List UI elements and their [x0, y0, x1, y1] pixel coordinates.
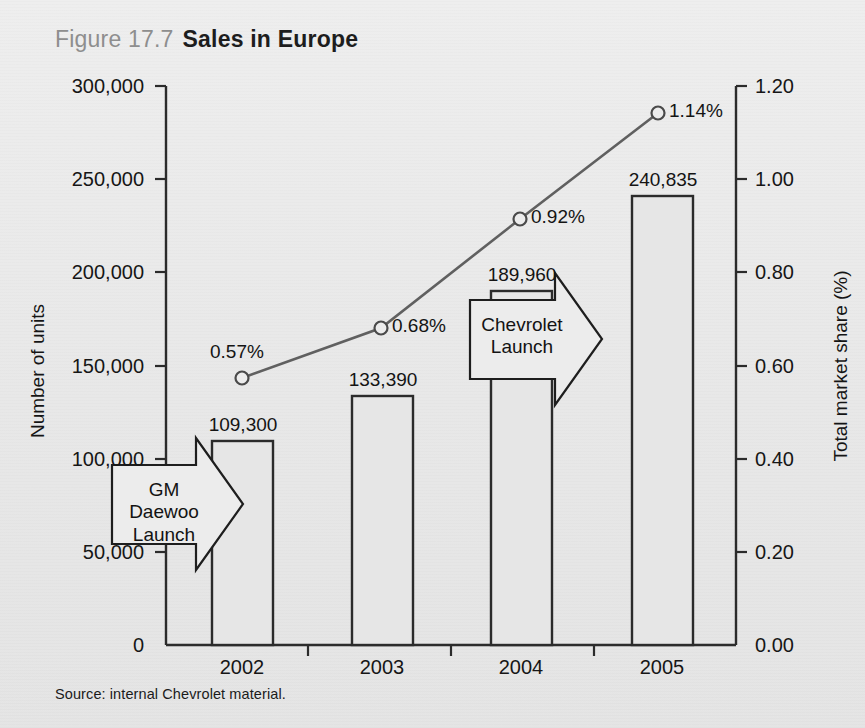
point-label-2004: 0.92% — [531, 206, 585, 228]
bar-label-2004: 189,960 — [442, 264, 602, 286]
ytick-left-300000: 300,000 — [14, 75, 144, 98]
point-label-2005: 1.14% — [669, 100, 723, 122]
ytick-left-150000: 150,000 — [14, 355, 144, 378]
bar-label-2002: 109,300 — [163, 414, 323, 436]
y-axis-right-ticks — [736, 86, 747, 552]
xtick-2003: 2003 — [322, 656, 442, 679]
xtick-2005: 2005 — [602, 656, 722, 679]
ytick-right-0-20: 0.20 — [755, 541, 865, 564]
point-label-2002: 0.57% — [210, 341, 264, 363]
ytick-left-0: 0 — [14, 634, 144, 657]
bar-label-2003: 133,390 — [303, 369, 463, 391]
marker-2003 — [375, 322, 388, 335]
ytick-left-200000: 200,000 — [14, 261, 144, 284]
marker-2002 — [236, 372, 249, 385]
marker-2004 — [514, 213, 527, 226]
ytick-right-1-00: 1.00 — [755, 168, 865, 191]
bar-2005 — [632, 196, 693, 645]
point-label-2003: 0.68% — [392, 315, 446, 337]
source-note: Source: internal Chevrolet material. — [55, 686, 286, 702]
figure-page: Figure 17.7Sales in Europe — [0, 0, 865, 728]
chevrolet-launch-label: Chevrolet Launch — [470, 314, 574, 359]
bar-2003 — [352, 396, 413, 645]
ytick-right-0-80: 0.80 — [755, 261, 865, 284]
chart-area: Number of units Total market share (%) 3… — [0, 0, 865, 728]
gm-daewoo-launch-label: GM Daewoo Launch — [112, 479, 216, 546]
ytick-left-100000: 100,000 — [14, 448, 144, 471]
xtick-2002: 2002 — [182, 656, 302, 679]
marker-2005 — [652, 107, 665, 120]
x-axis-ticks — [308, 645, 594, 656]
ytick-right-0-40: 0.40 — [755, 448, 865, 471]
xtick-2004: 2004 — [461, 656, 581, 679]
ytick-right-1-20: 1.20 — [755, 75, 865, 98]
ytick-right-0-00: 0.00 — [755, 634, 865, 657]
ytick-right-0-60: 0.60 — [755, 355, 865, 378]
bar-label-2005: 240,835 — [583, 169, 743, 191]
ytick-left-250000: 250,000 — [14, 168, 144, 191]
